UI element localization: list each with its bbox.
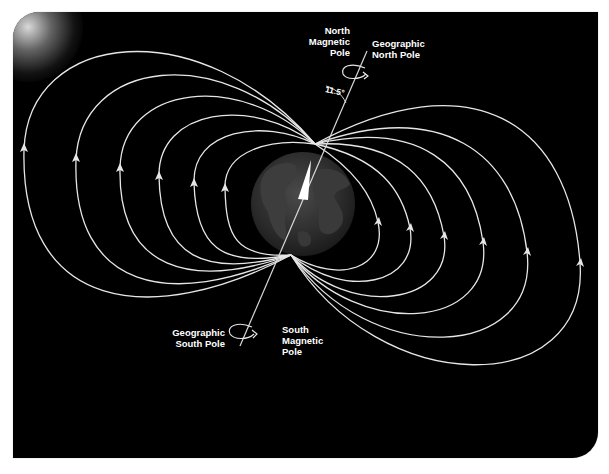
geographic-south-pole-label: Geographic South Pole: [165, 327, 225, 349]
diagram-panel: North Magnetic Pole Geographic North Pol…: [13, 12, 598, 458]
geographic-north-pole-label: Geographic North Pole: [372, 38, 425, 60]
earth-globe: [251, 152, 355, 256]
magnetic-field-diagram: [13, 12, 598, 458]
south-magnetic-pole-label: South Magnetic Pole: [282, 324, 323, 357]
north-magnetic-pole-label: North Magnetic Pole: [300, 25, 350, 58]
